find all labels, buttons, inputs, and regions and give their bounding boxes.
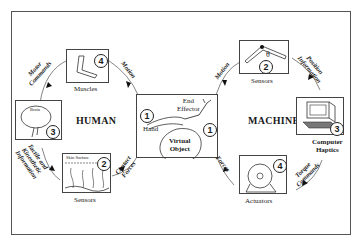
machine-sensors-label: Sensors bbox=[251, 77, 273, 85]
human-group-label: HUMAN bbox=[76, 115, 116, 126]
virtual-object-label: Virtual Object bbox=[169, 137, 191, 153]
actuators-label: Actuators bbox=[245, 197, 272, 205]
machine-group-label: MACHINE bbox=[248, 115, 300, 126]
machine-sensors-number-badge: 2 bbox=[259, 60, 273, 74]
theta-symbol: θ bbox=[266, 51, 270, 59]
hand-label: Hand bbox=[143, 125, 158, 133]
actuators-number-badge: 4 bbox=[273, 159, 287, 173]
human-sensors-number-badge: 2 bbox=[97, 157, 111, 171]
node-computer: 3 bbox=[296, 97, 344, 135]
computer-number-badge: 3 bbox=[330, 122, 344, 136]
center-number-badge-left: 1 bbox=[140, 109, 154, 123]
node-human-sensors: Skin Surface 2 bbox=[62, 153, 111, 193]
node-machine-sensors: θ 2 bbox=[239, 40, 289, 74]
center-interaction-box: 1 1 End Effector Hand Virtual Object bbox=[136, 94, 218, 158]
node-muscles: 4 bbox=[66, 49, 109, 83]
muscles-number-badge: 4 bbox=[94, 54, 108, 68]
brain-inner-label: Brain bbox=[30, 107, 40, 112]
brain-number-badge: 3 bbox=[46, 125, 60, 139]
center-number-badge-right: 1 bbox=[203, 123, 217, 137]
computer-haptics-label: Computer Haptics bbox=[312, 138, 343, 154]
muscles-label: Muscles bbox=[74, 85, 97, 93]
skin-surface-label: Skin Surface bbox=[66, 155, 89, 160]
human-sensors-label: Sensors bbox=[74, 196, 96, 204]
end-effector-label: End Effector bbox=[177, 97, 200, 113]
node-actuators: 4 bbox=[239, 155, 287, 194]
node-brain: Brain 3 bbox=[15, 100, 62, 140]
